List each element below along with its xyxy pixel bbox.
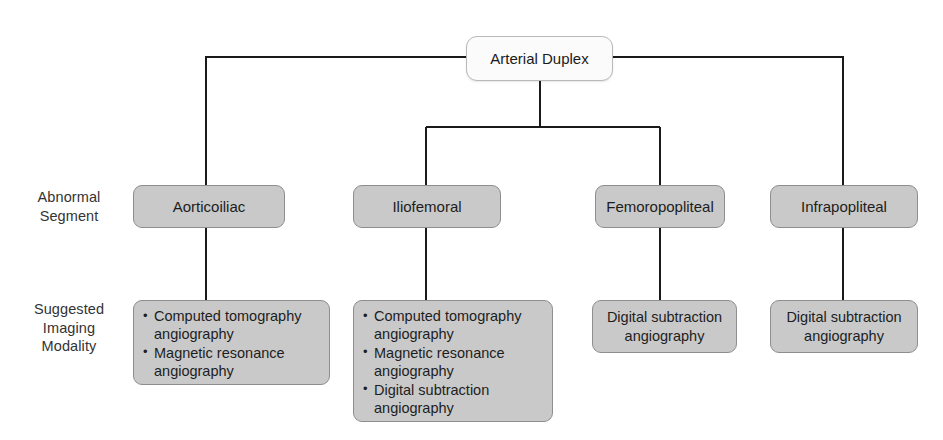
- row-label-abnormal-segment-line1: Abnormal: [10, 188, 128, 207]
- modality-list-aorticoiliac: Computed tomography angiography Magnetic…: [143, 308, 320, 382]
- row-label-abnormal-segment: Abnormal Segment: [10, 188, 128, 225]
- connector-root-to-aorticoiliac: [206, 57, 466, 185]
- row-label-modality-line2: Imaging: [10, 319, 128, 338]
- node-segment-aorticoiliac-label: Aorticoiliac: [173, 198, 246, 215]
- row-label-modality-line3: Modality: [10, 337, 128, 356]
- list-item: Computed tomography angiography: [363, 308, 543, 344]
- node-segment-femoropopliteal[interactable]: Femoropopliteal: [595, 185, 725, 228]
- list-item: Magnetic resonance angiography: [363, 345, 543, 381]
- node-segment-infrapopliteal[interactable]: Infrapopliteal: [770, 185, 918, 228]
- row-label-suggested-imaging-modality: Suggested Imaging Modality: [10, 300, 128, 356]
- node-segment-iliofemoral-label: Iliofemoral: [392, 198, 461, 215]
- connector-root-to-infrapopliteal: [613, 57, 843, 185]
- node-modality-aorticoiliac[interactable]: Computed tomography angiography Magnetic…: [133, 300, 330, 385]
- node-arterial-duplex[interactable]: Arterial Duplex: [466, 36, 613, 81]
- list-item: Digital subtraction angiography: [363, 382, 543, 418]
- node-segment-aorticoiliac[interactable]: Aorticoiliac: [133, 185, 285, 228]
- modality-text-infrapopliteal: Digital subtraction angiography: [779, 308, 909, 345]
- node-modality-iliofemoral[interactable]: Computed tomography angiography Magnetic…: [353, 300, 553, 422]
- node-segment-iliofemoral[interactable]: Iliofemoral: [353, 185, 501, 228]
- row-label-modality-line1: Suggested: [10, 300, 128, 319]
- arterial-duplex-flowchart: Abnormal Segment Suggested Imaging Modal…: [0, 0, 943, 440]
- node-arterial-duplex-label: Arterial Duplex: [490, 50, 588, 67]
- list-item: Magnetic resonance angiography: [143, 345, 320, 381]
- modality-text-femoropopliteal: Digital subtraction angiography: [601, 308, 728, 345]
- row-label-abnormal-segment-line2: Segment: [10, 207, 128, 226]
- node-modality-infrapopliteal[interactable]: Digital subtraction angiography: [770, 300, 918, 353]
- list-item: Computed tomography angiography: [143, 308, 320, 344]
- node-modality-femoropopliteal[interactable]: Digital subtraction angiography: [592, 300, 737, 353]
- modality-list-iliofemoral: Computed tomography angiography Magnetic…: [363, 308, 543, 419]
- node-segment-femoropopliteal-label: Femoropopliteal: [606, 198, 714, 215]
- node-segment-infrapopliteal-label: Infrapopliteal: [801, 198, 887, 215]
